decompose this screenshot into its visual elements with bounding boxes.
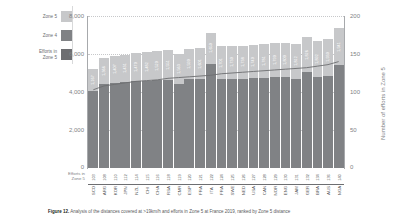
bar-segment-zone-5[interactable]: 1,167 <box>88 69 98 91</box>
bar-column[interactable]: 1,431 <box>120 16 130 168</box>
bar-segment-zone-4[interactable] <box>120 82 130 168</box>
efforts-row-value: 103 <box>91 174 96 181</box>
bar-column[interactable]: 1,781 <box>259 16 269 168</box>
bar-segment-zone-4[interactable] <box>184 79 194 168</box>
bar-column[interactable]: 1,520 <box>152 16 162 168</box>
bar-segment-zone-5[interactable]: 1,701 <box>217 46 227 78</box>
bar-segment-zone-4[interactable] <box>238 79 248 168</box>
bar-segment-zone-5[interactable]: 1,650 <box>206 33 216 64</box>
bar-segment-zone-4[interactable] <box>227 79 237 168</box>
bar-segment-zone-5[interactable]: 1,941 <box>334 28 344 65</box>
bar-column[interactable]: 1,892 <box>313 16 323 168</box>
bar-segment-zone-4[interactable] <box>302 72 312 168</box>
legend-item-zone-4: Zone 4 <box>6 27 72 44</box>
efforts-row-cell: 132 <box>301 171 312 184</box>
bar-segment-zone-5[interactable]: 1,520 <box>152 51 162 80</box>
y-axis-right-line <box>344 16 345 169</box>
x-axis-label-text: CHA <box>155 186 160 195</box>
bar-segment-zone-5[interactable]: 1,740 <box>249 45 259 78</box>
bar-column[interactable]: 1,470 <box>131 16 141 168</box>
x-axis-labels: SCOARGKORJPNNZLCHICHARSACMRESPFRAITAFRAS… <box>88 186 344 200</box>
bar-column[interactable]: 1,563 <box>174 16 184 168</box>
bar-segment-zone-4[interactable] <box>249 78 259 168</box>
bar-segment-zone-4[interactable] <box>131 81 141 168</box>
bar-column[interactable]: 1,800 <box>281 16 291 168</box>
bar-segment-zone-4[interactable] <box>142 81 152 168</box>
bar-segment-zone-5[interactable]: 1,812 <box>291 44 301 78</box>
bar-column[interactable]: 1,812 <box>291 16 301 168</box>
bar-value-label: 1,941 <box>337 42 341 52</box>
bar-segment-zone-5[interactable]: 1,590 <box>184 49 194 79</box>
bar-segment-zone-4[interactable] <box>88 91 98 168</box>
x-axis-label-text: FRA <box>219 186 224 195</box>
bar-column[interactable]: 1,167 <box>88 16 98 168</box>
bar-segment-zone-5[interactable]: 1,563 <box>174 54 184 84</box>
efforts-row-cell: 115 <box>141 171 152 184</box>
bar-segment-zone-5[interactable]: 1,470 <box>131 53 141 81</box>
bar-segment-zone-5[interactable]: 1,366 <box>99 58 109 84</box>
bar-column[interactable]: 1,407 <box>110 16 120 168</box>
bar-segment-zone-4[interactable] <box>152 80 162 168</box>
bar-segment-zone-4[interactable] <box>174 84 184 168</box>
bar-segment-zone-5[interactable]: 1,790 <box>270 43 280 77</box>
bar-segment-zone-5[interactable]: 1,730 <box>227 46 237 79</box>
x-axis-label-text: BRA <box>315 186 320 195</box>
bar-segment-zone-4[interactable] <box>163 80 173 168</box>
bar-column[interactable]: 1,650 <box>206 16 216 168</box>
x-axis-label-text: JAM <box>294 186 299 195</box>
bar-segment-zone-5[interactable]: 1,826 <box>302 37 312 72</box>
figure-caption: Figure 12. Analysis of the distances cov… <box>48 209 378 215</box>
x-axis-label: GER <box>301 186 312 200</box>
efforts-row-cell: 125 <box>227 171 238 184</box>
bar-segment-zone-5[interactable]: 1,482 <box>142 52 152 80</box>
bar-segment-zone-4[interactable] <box>99 84 109 168</box>
bar-segment-zone-5[interactable]: 1,738 <box>238 46 248 79</box>
bar-column[interactable]: 1,590 <box>184 16 194 168</box>
bar-column[interactable]: 1,790 <box>270 16 280 168</box>
bar-segment-zone-4[interactable] <box>291 79 301 168</box>
bar-column[interactable]: 1,701 <box>217 16 227 168</box>
bar-value-label: 1,826 <box>305 50 309 60</box>
plot-area: 1,1671,3661,4071,4311,4701,4821,5201,551… <box>88 16 344 168</box>
bar-value-label: 1,930 <box>326 52 330 62</box>
bar-value-label: 1,781 <box>262 56 266 66</box>
bar-column[interactable]: 1,601 <box>195 16 205 168</box>
bar-segment-zone-5[interactable]: 1,601 <box>195 48 205 78</box>
efforts-row-cell: 127 <box>248 171 259 184</box>
bar-column[interactable]: 1,366 <box>99 16 109 168</box>
bar-segment-zone-5[interactable]: 1,407 <box>110 56 120 83</box>
bar-segment-zone-4[interactable] <box>323 76 333 168</box>
bar-column[interactable]: 1,482 <box>142 16 152 168</box>
bar-segment-zone-4[interactable] <box>195 79 205 168</box>
x-axis-label-text: JPN <box>123 186 128 194</box>
bar-column[interactable]: 1,738 <box>238 16 248 168</box>
bar-segment-zone-5[interactable]: 1,930 <box>323 39 333 76</box>
bar-segment-zone-4[interactable] <box>270 77 280 168</box>
bar-segment-zone-5[interactable]: 1,551 <box>163 50 173 79</box>
x-axis-label: NZL <box>131 186 142 200</box>
bar-column[interactable]: 1,826 <box>302 16 312 168</box>
bar-segment-zone-4[interactable] <box>334 65 344 168</box>
bar-segment-zone-5[interactable]: 1,431 <box>120 55 130 82</box>
bar-segment-zone-4[interactable] <box>259 78 269 168</box>
bar-value-label: 1,812 <box>294 57 298 67</box>
bar-segment-zone-5[interactable]: 1,781 <box>259 44 269 78</box>
x-axis-label: CHA <box>152 186 163 200</box>
y-axis-right-tick: 100 <box>350 89 376 95</box>
x-axis-label: NGA <box>333 186 344 200</box>
bar-column[interactable]: 1,730 <box>227 16 237 168</box>
efforts-row-value: 125 <box>230 174 235 181</box>
x-axis-label: CHI <box>141 186 152 200</box>
bar-column[interactable]: 1,740 <box>249 16 259 168</box>
bar-segment-zone-5[interactable]: 1,800 <box>281 43 291 77</box>
bar-column[interactable]: 1,941 <box>334 16 344 168</box>
efforts-row-value: 122 <box>208 174 213 181</box>
bar-column[interactable]: 1,930 <box>323 16 333 168</box>
bar-segment-zone-4[interactable] <box>281 77 291 168</box>
bar-segment-zone-4[interactable] <box>110 83 120 169</box>
bar-column[interactable]: 1,551 <box>163 16 173 168</box>
bar-segment-zone-5[interactable]: 1,892 <box>313 41 323 77</box>
bar-segment-zone-4[interactable] <box>313 77 323 168</box>
bar-segment-zone-4[interactable] <box>217 79 227 168</box>
bar-segment-zone-4[interactable] <box>206 64 216 168</box>
